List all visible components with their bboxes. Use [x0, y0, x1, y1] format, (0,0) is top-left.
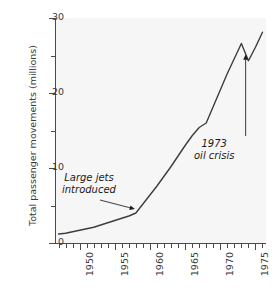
annotation-large-jets-line2: introduced	[62, 184, 116, 196]
data-overlay	[0, 0, 280, 292]
annotation-oil-crisis-line2: oil crisis	[194, 150, 234, 162]
arrow-large-jets-head	[129, 205, 135, 210]
data-line-series-0	[59, 32, 263, 234]
chart-figure: 0102030195019551960196519701975 Total pa…	[0, 0, 280, 292]
annotation-large-jets: Large jets introduced	[62, 172, 116, 195]
annotation-large-jets-line1: Large jets	[62, 172, 116, 184]
annotation-oil-crisis: 1973 oil crisis	[194, 138, 234, 161]
arrow-large-jets-shaft	[100, 200, 130, 208]
annotation-oil-crisis-line1: 1973	[194, 138, 234, 150]
